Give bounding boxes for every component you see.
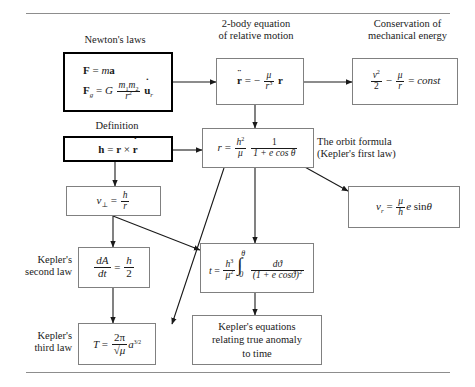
symbol-sub-2: 2 <box>135 86 138 92</box>
kepler-equations-box: Kepler's equations relating true anomaly… <box>192 315 322 365</box>
symbol-equals: = <box>225 140 231 152</box>
symbol-mu: μ <box>267 70 272 80</box>
time-integral-equation: t = h3 μ2 ∫θ0 dϑ (1 + e cosϑ)2 <box>209 255 305 281</box>
newtons-laws-box: F = ma Fg = G m1m2 r2 ur <box>63 52 173 112</box>
symbol-h: h <box>123 190 128 200</box>
symbol-minus: − <box>254 74 260 86</box>
kepler-third-law-box: T = 2π √μ a3/2 <box>78 323 156 365</box>
symbol-theta: θ <box>427 199 432 211</box>
fraction-v2-over-2: v2 2 <box>371 71 382 92</box>
fraction-mu-over-r3: μ r3 <box>264 71 275 92</box>
arrow-orbit-to-vradial <box>303 166 348 191</box>
caption-orbit-formula: The orbit formula (Kepler's first law) <box>317 136 467 161</box>
fraction-h2-over-mu: h2 μ <box>235 138 247 159</box>
symbol-2: 2 <box>371 82 382 92</box>
fraction-2pi-over-sqrt-mu: 2π √μ <box>112 332 128 356</box>
caption-orbit-line1: The orbit formula <box>317 136 467 148</box>
kepler-equations-line3: to time <box>212 347 302 361</box>
symbol-a: a <box>109 64 115 76</box>
caption-definition: Definition <box>62 120 172 132</box>
symbol-sub-g: g <box>90 91 94 99</box>
symbol-exp-2: 2 <box>377 69 380 75</box>
symbol-equals-2: = <box>96 84 102 96</box>
symbol-perp: ⊥ <box>101 200 108 208</box>
orbit-formula-equation: r = h2 μ 1 1 + e cos θ <box>218 138 299 159</box>
fraction-h-over-r: h r <box>121 191 130 212</box>
caption-two-body-line2: of relative motion <box>196 30 316 42</box>
symbol-exp-3: 3 <box>269 80 272 86</box>
symbol-exp-3: 3 <box>230 258 233 264</box>
symbol-exponent-3-2: 3/2 <box>134 339 141 345</box>
symbol-r-doubledot: r <box>237 74 242 87</box>
symbol-r: r <box>218 140 222 152</box>
symbol-h: h <box>398 207 403 217</box>
fraction-1-over-1-plus-ecos: 1 1 + e cos θ <box>251 138 297 159</box>
caption-kepler-third: Kepler's third law <box>12 330 72 355</box>
symbol-cross-product: × <box>124 143 130 155</box>
kepler-second-equation: dA dt = h 2 <box>93 255 134 279</box>
symbol-r: r <box>116 143 121 155</box>
symbol-minus: − <box>386 74 392 86</box>
caption-kepler-second: Kepler's second law <box>12 254 72 279</box>
symbol-r: r <box>123 201 127 211</box>
kepler-equations-line2: relating true anomaly <box>212 333 302 347</box>
two-body-box: r = − μ r3 r <box>216 58 304 105</box>
symbol-sin: sin <box>414 199 427 211</box>
v-perpendicular-box: v⊥ = h r <box>66 186 161 216</box>
v-perpendicular-equation: v⊥ = h r <box>97 191 131 212</box>
symbol-equals: = <box>245 74 251 86</box>
arrow-vperp-to-timeintegral <box>113 216 200 250</box>
energy-box: v2 2 − μ r = const <box>352 58 458 105</box>
bottom-rule <box>26 372 450 373</box>
angular-momentum-box: h = r × r <box>63 136 173 162</box>
symbol-mu: μ <box>398 70 403 80</box>
newtons-gravitation-equation: Fg = G m1m2 r2 ur <box>83 81 153 102</box>
symbol-equals: = <box>114 262 120 274</box>
figure-canvas: Newton's laws 2-body equation of relativ… <box>0 0 475 387</box>
symbol-mu: μ <box>398 196 403 206</box>
caption-two-body: 2-body equation of relative motion <box>196 18 316 43</box>
symbol-equals: = <box>102 338 108 350</box>
symbol-1: 1 <box>251 138 297 149</box>
caption-two-body-line1: 2-body equation <box>196 18 316 30</box>
orbit-formula-box: r = h2 μ 1 1 + e cos θ <box>202 128 314 168</box>
fraction-mu-over-h: μ h <box>396 197 405 218</box>
symbol-equals: = <box>408 74 414 86</box>
fraction-dvartheta-over-denom: dϑ (1 + e cosϑ)2 <box>251 260 304 281</box>
symbol-exp-2: 2 <box>230 269 233 275</box>
caption-kepler-second-line1: Kepler's <box>12 254 72 266</box>
symbol-denominator: (1 + e cosϑ) <box>253 270 299 280</box>
symbol-equals: = <box>107 143 113 155</box>
symbol-dt: dt <box>94 268 110 280</box>
fraction-h3-over-mu2: h3 μ2 <box>223 260 235 281</box>
symbol-u-hat: u <box>144 82 150 100</box>
symbol-const: const <box>417 74 440 86</box>
symbol-h: h <box>98 143 104 155</box>
caption-energy-line2: mechanical energy <box>345 30 470 42</box>
symbol-2: 2 <box>124 268 134 280</box>
symbol-T: T <box>93 338 99 350</box>
integral-upper-limit: θ <box>241 249 245 258</box>
kepler-third-equation: T = 2π √μ a3/2 <box>93 332 141 356</box>
caption-energy-line1: Conservation of <box>345 18 470 30</box>
symbol-exp-2: 2 <box>241 135 244 141</box>
symbol-2pi: 2π <box>112 332 128 345</box>
integral-lower-limit: 0 <box>239 270 243 279</box>
caption-orbit-line2: (Kepler's first law) <box>317 148 467 160</box>
caption-energy: Conservation of mechanical energy <box>345 18 470 43</box>
caption-kepler-second-line2: second law <box>12 266 72 278</box>
symbol-equals: = <box>92 64 98 76</box>
time-integral-box: t = h3 μ2 ∫θ0 dϑ (1 + e cosϑ)2 <box>200 243 314 293</box>
integral-sign: ∫θ0 <box>237 255 246 275</box>
symbol-F: F <box>83 64 90 76</box>
symbol-denominator: 1 + e cos θ <box>251 149 297 159</box>
caption-newtons-laws-text: Newton's laws <box>84 34 145 45</box>
two-body-equation: r = − μ r3 r <box>237 71 283 92</box>
v-radial-box: vr = μ h e sinθ <box>348 186 460 228</box>
fraction-dA-over-dt: dA dt <box>94 255 110 279</box>
caption-kepler-third-line2: third law <box>12 342 72 354</box>
caption-definition-text: Definition <box>95 120 138 131</box>
symbol-t: t <box>209 264 212 275</box>
symbol-equals: = <box>214 264 220 275</box>
caption-kepler-third-line1: Kepler's <box>12 330 72 342</box>
